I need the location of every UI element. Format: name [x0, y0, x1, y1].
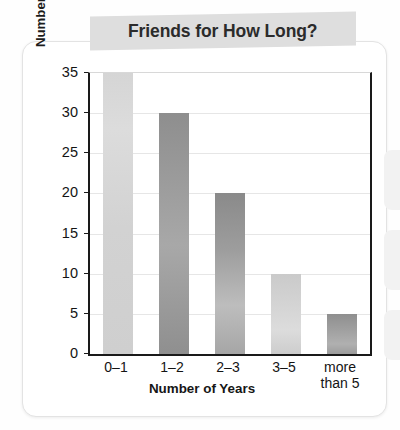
x-tick-label: morethan 5 — [312, 360, 368, 391]
plot-area — [88, 72, 372, 356]
bar — [327, 314, 357, 354]
y-tick-label: 30 — [44, 105, 78, 120]
y-tick-label: 20 — [44, 185, 78, 200]
page-root: Friends for How Long? Number of Students… — [0, 0, 400, 430]
y-tick-label: 25 — [44, 145, 78, 160]
bar — [215, 193, 245, 354]
bar — [159, 113, 189, 354]
bar — [103, 73, 133, 354]
y-tick-label: 5 — [44, 306, 78, 321]
x-tick-label: 3–5 — [256, 360, 312, 376]
x-tick-label: 1–2 — [144, 360, 200, 376]
bar-chart: Number of Students out of 100 0510152025… — [0, 0, 400, 430]
x-tick-label: 2–3 — [200, 360, 256, 376]
x-axis-label: Number of Years — [88, 381, 316, 396]
y-tick-label: 35 — [44, 65, 78, 80]
y-tick-label: 0 — [44, 346, 78, 361]
bar — [271, 274, 301, 354]
x-tick-label: 0–1 — [88, 360, 144, 376]
y-tick-label: 10 — [44, 266, 78, 281]
y-tick-label: 15 — [44, 226, 78, 241]
